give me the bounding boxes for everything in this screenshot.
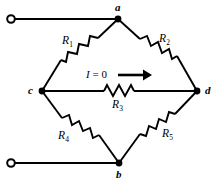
resistor-R3-zigzag bbox=[104, 85, 134, 96]
current-arrow-icon bbox=[118, 70, 152, 81]
current-value: 0 bbox=[101, 68, 107, 80]
resistor-label-R2: R2 bbox=[159, 33, 170, 45]
node-dot-a bbox=[115, 16, 122, 23]
node-dot-d bbox=[194, 88, 201, 95]
resistor-label-R2-subscript: 2 bbox=[166, 38, 170, 47]
top-terminal-circle bbox=[7, 15, 15, 23]
node-label-c: c bbox=[28, 85, 33, 96]
node-label-b: b bbox=[116, 169, 122, 180]
resistor-label-R4-symbol: R bbox=[58, 129, 65, 141]
wire-r1-to-c bbox=[42, 60, 61, 91]
current-arrow-head bbox=[143, 70, 152, 81]
resistor-label-R5-subscript: 5 bbox=[169, 133, 173, 142]
bottom-terminal-circle bbox=[7, 159, 15, 167]
branch-a-c bbox=[42, 19, 118, 91]
node-label-a: a bbox=[115, 2, 121, 13]
current-annotation: I = 0 bbox=[86, 69, 107, 80]
branch-a-d bbox=[118, 19, 197, 91]
resistor-label-R5: R5 bbox=[162, 128, 173, 140]
resistor-label-R1-subscript: 1 bbox=[69, 40, 73, 49]
resistor-label-R3-subscript: 3 bbox=[119, 104, 123, 113]
wire-c-to-r4 bbox=[42, 91, 62, 118]
node-label-d: d bbox=[205, 85, 211, 96]
resistor-label-R3: R3 bbox=[112, 99, 123, 111]
resistor-label-R3-symbol: R bbox=[112, 98, 119, 110]
wire-a-to-r1 bbox=[98, 19, 118, 38]
resistor-label-R5-symbol: R bbox=[162, 127, 169, 139]
branch-c-d bbox=[42, 85, 197, 96]
resistor-label-R4: R4 bbox=[58, 130, 69, 142]
wire-r4-to-b bbox=[99, 135, 119, 163]
node-dot-c bbox=[39, 88, 46, 95]
resistor-label-R1-symbol: R bbox=[62, 34, 69, 46]
branch-c-b bbox=[42, 91, 119, 163]
resistor-label-R2-symbol: R bbox=[159, 32, 166, 44]
resistor-label-R4-subscript: 4 bbox=[65, 135, 69, 144]
node-dot-b bbox=[116, 160, 123, 167]
wire-r5-to-d bbox=[175, 91, 197, 114]
branch-b-d bbox=[119, 91, 197, 163]
wire-b-to-r5 bbox=[119, 134, 140, 163]
current-equals: = bbox=[90, 68, 102, 80]
wire-r2-to-d bbox=[177, 56, 197, 91]
wire-a-to-r2 bbox=[118, 19, 140, 39]
resistor-label-R1: R1 bbox=[62, 35, 73, 47]
circuit-figure: a b c d R1 R2 R3 R4 R5 I = 0 bbox=[0, 0, 218, 185]
